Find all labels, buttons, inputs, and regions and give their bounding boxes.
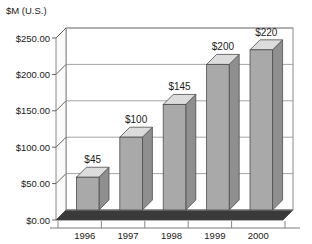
bar-1996 <box>76 167 109 210</box>
chart-canvas: $M (U.S.) $0.00$50.00$100.00$150.00$200.… <box>0 0 312 244</box>
bar-value-label: $100 <box>125 114 148 125</box>
bar-front-face <box>120 137 143 210</box>
left-wall <box>56 28 66 220</box>
bar-1999 <box>207 54 240 210</box>
bar-front-face <box>163 104 186 210</box>
bar-front-face <box>207 64 230 210</box>
bar-value-label: $145 <box>168 81 191 92</box>
y-tick-label: $50.00 <box>21 178 50 189</box>
bar-value-label: $45 <box>84 154 101 165</box>
bar-side-face <box>142 127 152 210</box>
bar-front-face <box>76 177 99 210</box>
bar-side-face <box>186 94 196 210</box>
y-tick-label: $100.00 <box>16 142 50 153</box>
y-tick-label: $150.00 <box>16 105 50 116</box>
y-tick-label: $200.00 <box>16 69 50 80</box>
bar-side-face <box>229 54 239 210</box>
x-tick-label: 1996 <box>74 230 95 241</box>
y-axis-title: $M (U.S.) <box>6 5 47 16</box>
bar-value-label: $200 <box>212 41 235 52</box>
bar-front-face <box>250 50 273 210</box>
bar-side-face <box>273 40 283 210</box>
bar-1998 <box>163 94 196 210</box>
y-tick-label: $250.00 <box>16 33 50 44</box>
bar-2000 <box>250 40 283 210</box>
x-tick-label: 2000 <box>248 230 269 241</box>
x-tick-label: 1999 <box>204 230 225 241</box>
y-tick-label: $0.00 <box>26 215 50 226</box>
x-tick-label: 1998 <box>161 230 182 241</box>
bar-chart: $M (U.S.) $0.00$50.00$100.00$150.00$200.… <box>0 0 312 244</box>
bar-1997 <box>120 127 153 210</box>
x-tick-label: 1997 <box>118 230 139 241</box>
floor-plane <box>56 210 293 220</box>
bar-value-label: $220 <box>255 27 278 38</box>
